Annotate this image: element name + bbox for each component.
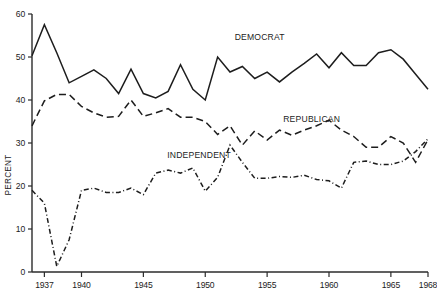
y-tick-label: 60: [16, 9, 26, 19]
x-tick-label: 1960: [320, 280, 339, 290]
y-tick-label: 30: [16, 138, 26, 148]
chart-container: 0102030405060 19371940194519501955196019…: [0, 0, 437, 295]
series-label-republican: REPUBLICAN: [283, 114, 340, 124]
series-annotations: DEMOCRATREPUBLICANINDEPENDENT: [167, 32, 340, 160]
x-tick-label: 1955: [258, 280, 277, 290]
series-group: [32, 25, 428, 267]
y-axis-tick-labels: 0102030405060: [16, 9, 26, 277]
x-tick-label: 1968: [419, 280, 437, 290]
y-tick-label: 50: [16, 52, 26, 62]
x-tick-label: 1937: [35, 280, 54, 290]
x-tick-label: 1945: [134, 280, 153, 290]
series-line-democrat: [32, 25, 428, 100]
y-axis-title: PERCENT: [4, 154, 13, 195]
x-axis-ticks: [44, 272, 428, 277]
y-tick-label: 10: [16, 224, 26, 234]
series-label-democrat: DEMOCRAT: [235, 32, 286, 42]
y-tick-label: 0: [20, 267, 25, 277]
x-tick-label: 1950: [196, 280, 215, 290]
x-tick-label: 1965: [382, 280, 401, 290]
x-axis-tick-labels: 19371940194519501955196019651968: [35, 280, 437, 290]
line-chart: 0102030405060 19371940194519501955196019…: [0, 0, 437, 295]
x-tick-label: 1940: [72, 280, 91, 290]
y-tick-label: 20: [16, 181, 26, 191]
series-label-independent: INDEPENDENT: [167, 150, 231, 160]
y-tick-label: 40: [16, 95, 26, 105]
